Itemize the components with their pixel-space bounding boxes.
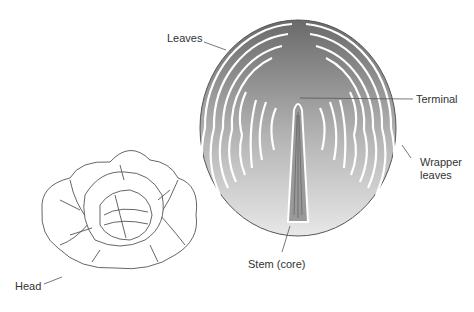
label-head: Head [15, 280, 41, 293]
label-leaves: Leaves [167, 32, 202, 45]
cabbage-head-drawing [42, 150, 197, 268]
label-stem: Stem (core) [248, 258, 305, 271]
label-wrapper-line1: Wrapper [420, 156, 462, 169]
label-wrapper-line2: leaves [420, 169, 452, 182]
label-terminal: Terminal [416, 93, 458, 106]
cross-section [200, 20, 396, 236]
cabbage-diagram [0, 0, 474, 312]
